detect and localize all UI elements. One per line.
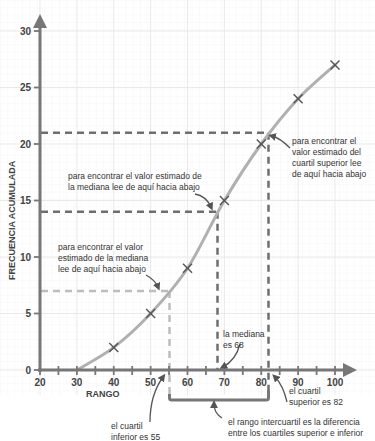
y-tick-label: 10	[20, 252, 32, 263]
y-tick-label: 25	[20, 82, 32, 93]
q3-read-note: para encontrar el valor estimado del cua…	[292, 136, 366, 179]
x-tick-label: 20	[34, 377, 46, 388]
x-tick-label: 40	[108, 377, 120, 388]
y-tick-label: 0	[25, 365, 31, 376]
y-tick-label: 15	[20, 195, 32, 206]
x-tick-label: 60	[182, 377, 194, 388]
y-tick-label: 5	[25, 308, 31, 319]
y-tick-label: 20	[20, 139, 32, 150]
x-tick-label: 30	[71, 377, 83, 388]
x-tick-label: 100	[327, 377, 344, 388]
y-axis-title: FRECUENCIA ACUMULADA	[7, 160, 17, 280]
x-axis-title: RANGO	[86, 389, 120, 399]
q1-read-note: para encontrar el valor estimado de la m…	[58, 242, 151, 274]
grid	[0, 0, 375, 395]
iqr-arrow-icon	[214, 404, 222, 418]
x-tick-label: 70	[219, 377, 231, 388]
median-read-note: para encontrar el valor estimado de la m…	[68, 171, 204, 192]
iqr-note: el rango intercuartil es la diferencia e…	[228, 417, 363, 438]
x-tick-label: 50	[145, 377, 157, 388]
q1-value-note: el cuartil inferior es 55	[111, 421, 160, 441]
y-tick-label: 30	[20, 26, 32, 37]
cumulative-frequency-chart: 2030405060708090100 051015202530 RANGO F…	[0, 0, 375, 441]
x-tick-label: 80	[256, 377, 268, 388]
